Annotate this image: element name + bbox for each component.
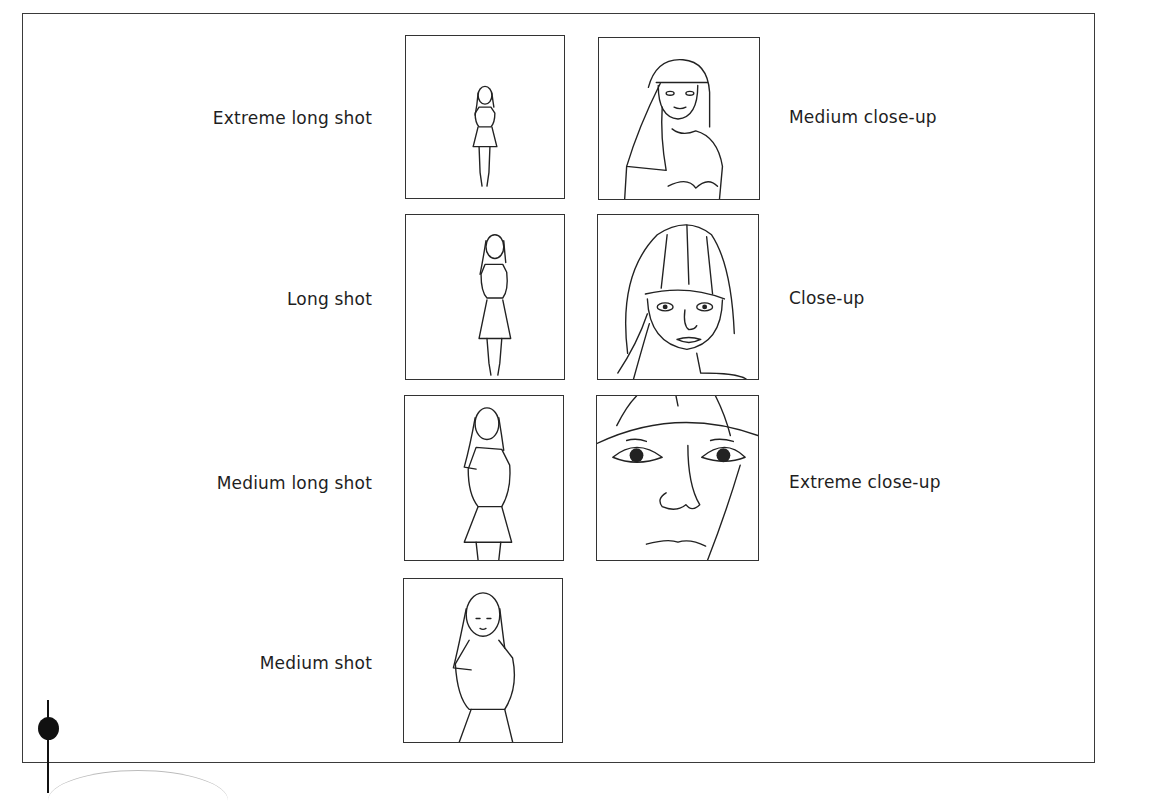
- extreme-close-up-figure-icon: [597, 396, 758, 560]
- close-up-figure-icon: [598, 215, 758, 379]
- label-medium-shot: Medium shot: [260, 653, 372, 673]
- medium-close-up-figure-icon: [599, 38, 759, 199]
- medium-shot-figure-icon: [404, 579, 562, 742]
- long-shot-figure-icon: [406, 215, 564, 379]
- frame-medium-close-up: [598, 37, 760, 200]
- label-close-up: Close-up: [789, 288, 865, 308]
- decorative-arc: [48, 770, 228, 805]
- label-medium-close-up: Medium close-up: [789, 107, 937, 127]
- medium-long-shot-figure-icon: [405, 396, 563, 560]
- label-extreme-long-shot: Extreme long shot: [213, 108, 372, 128]
- frame-extreme-long-shot: [405, 35, 565, 199]
- label-medium-long-shot: Medium long shot: [217, 473, 372, 493]
- frame-extreme-close-up: [596, 395, 759, 561]
- frame-medium-long-shot: [404, 395, 564, 561]
- page-marker-dot-icon: [38, 717, 59, 740]
- label-extreme-close-up: Extreme close-up: [789, 472, 941, 492]
- label-long-shot: Long shot: [287, 289, 372, 309]
- extreme-long-shot-figure-icon: [406, 36, 564, 198]
- frame-medium-shot: [403, 578, 563, 743]
- frame-long-shot: [405, 214, 565, 380]
- page-marker-line: [47, 700, 49, 793]
- frame-close-up: [597, 214, 759, 380]
